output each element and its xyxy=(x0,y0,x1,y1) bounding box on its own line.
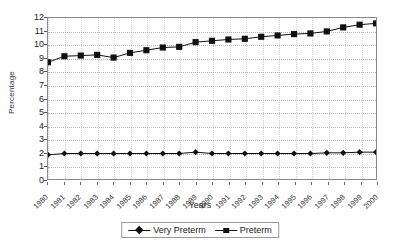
y-tick-mark xyxy=(44,126,47,127)
y-tick-mark xyxy=(44,17,47,18)
data-point-marker xyxy=(176,150,182,156)
data-point-marker xyxy=(291,31,297,37)
y-tick-label: 8 xyxy=(22,67,44,76)
legend-marker-diamond-icon xyxy=(128,226,150,234)
data-point-marker xyxy=(291,150,297,156)
y-tick-mark xyxy=(44,85,47,86)
data-point-marker xyxy=(307,150,313,156)
x-tick-mark xyxy=(196,182,197,185)
x-tick-mark xyxy=(80,182,81,185)
data-point-marker xyxy=(324,28,330,34)
x-tick-mark xyxy=(361,182,362,185)
data-point-marker xyxy=(111,150,117,156)
data-point-marker xyxy=(258,150,264,156)
data-point-marker xyxy=(61,53,67,59)
legend-label-preterm: Preterm xyxy=(240,225,272,235)
data-point-marker xyxy=(209,38,215,44)
x-tick-mark xyxy=(113,182,114,185)
data-point-marker xyxy=(258,34,264,40)
x-tick-mark xyxy=(262,182,263,185)
x-tick-mark xyxy=(47,182,48,185)
x-tick-mark xyxy=(245,182,246,185)
x-tick-mark xyxy=(130,182,131,185)
data-point-marker xyxy=(275,32,281,38)
x-tick-mark xyxy=(344,182,345,185)
data-point-marker xyxy=(48,59,51,65)
x-tick-mark xyxy=(97,182,98,185)
legend-item-very-preterm: Very Preterm xyxy=(128,225,206,235)
data-point-marker xyxy=(357,22,363,28)
line-chart: Percentage 1211109876543210 198019811982… xyxy=(0,0,400,245)
y-tick-label: 0 xyxy=(22,176,44,185)
data-point-marker xyxy=(242,150,248,156)
y-tick-mark xyxy=(44,71,47,72)
data-series-layer xyxy=(48,18,376,179)
x-tick-mark xyxy=(179,182,180,185)
data-point-marker xyxy=(373,149,376,155)
x-tick-mark xyxy=(377,182,378,185)
data-point-marker xyxy=(78,150,84,156)
data-point-marker xyxy=(94,150,100,156)
y-axis-ticks: 1211109876543210 xyxy=(18,0,44,185)
data-point-marker xyxy=(193,39,199,45)
y-tick-mark xyxy=(44,139,47,140)
data-point-marker xyxy=(307,30,313,36)
x-tick-mark xyxy=(64,182,65,185)
data-point-marker xyxy=(373,20,376,26)
y-tick-mark xyxy=(44,31,47,32)
data-point-marker xyxy=(324,150,330,156)
data-point-marker xyxy=(242,36,248,42)
plot-area xyxy=(47,17,377,180)
data-point-marker xyxy=(94,52,100,58)
y-axis-title-text: Percentage xyxy=(7,71,16,114)
legend-label-very-preterm: Very Preterm xyxy=(153,225,206,235)
y-tick-mark xyxy=(44,166,47,167)
x-tick-mark xyxy=(212,182,213,185)
y-tick-mark xyxy=(44,153,47,154)
y-tick-label: 4 xyxy=(22,121,44,130)
x-tick-mark xyxy=(163,182,164,185)
x-tick-mark xyxy=(311,182,312,185)
data-point-marker xyxy=(176,44,182,50)
data-point-marker xyxy=(127,50,133,56)
y-tick-label: 12 xyxy=(22,13,44,22)
data-point-marker xyxy=(340,150,346,156)
data-point-marker xyxy=(209,150,215,156)
data-point-marker xyxy=(78,53,84,59)
data-point-marker xyxy=(48,152,51,158)
data-point-marker xyxy=(357,149,363,155)
legend-marker-square-icon xyxy=(215,226,237,234)
data-point-marker xyxy=(61,150,67,156)
y-tick-mark xyxy=(44,99,47,100)
x-tick-mark xyxy=(278,182,279,185)
x-tick-mark xyxy=(146,182,147,185)
data-point-marker xyxy=(160,150,166,156)
x-tick-mark xyxy=(229,182,230,185)
data-point-marker xyxy=(225,36,231,42)
y-tick-mark xyxy=(44,58,47,59)
y-tick-mark xyxy=(44,180,47,181)
y-tick-label: 6 xyxy=(22,94,44,103)
legend-item-preterm: Preterm xyxy=(215,225,272,235)
data-point-marker xyxy=(143,150,149,156)
y-tick-label: 11 xyxy=(22,26,44,35)
data-point-marker xyxy=(111,55,117,61)
y-tick-label: 3 xyxy=(22,135,44,144)
data-point-marker xyxy=(340,24,346,30)
data-point-marker xyxy=(275,150,281,156)
data-point-marker xyxy=(160,44,166,50)
data-point-marker xyxy=(127,150,133,156)
y-tick-label: 10 xyxy=(22,40,44,49)
y-tick-label: 9 xyxy=(22,53,44,62)
x-axis-title: Years xyxy=(0,200,400,210)
y-tick-mark xyxy=(44,44,47,45)
y-tick-label: 2 xyxy=(22,148,44,157)
y-tick-label: 1 xyxy=(22,162,44,171)
data-point-marker xyxy=(193,149,199,155)
x-tick-mark xyxy=(328,182,329,185)
data-point-marker xyxy=(143,47,149,53)
x-tick-mark xyxy=(295,182,296,185)
y-tick-label: 5 xyxy=(22,108,44,117)
y-tick-mark xyxy=(44,112,47,113)
data-point-marker xyxy=(225,150,231,156)
